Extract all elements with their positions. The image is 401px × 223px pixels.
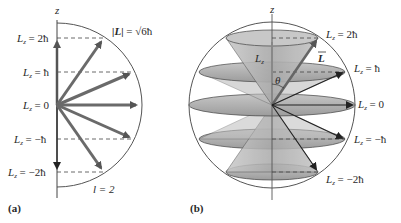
level-label-2hbar: Lz = 2ħ: [16, 32, 49, 46]
angular-momentum-diagram: z Lz = 2ħ Lz = ħ Lz = 0 Lz = −ħ Lz = −2ħ…: [0, 0, 401, 223]
vector-l-label: L: [317, 52, 325, 64]
level-b-hbar: Lz = ħ: [353, 62, 381, 76]
magnitude-label: |L| = √6ħ: [112, 25, 153, 37]
level-b-minus-2hbar: Lz = −2ħ: [325, 173, 364, 187]
theta-label: θ: [275, 74, 281, 86]
level-label-minus-hbar: Lz = −ħ: [13, 133, 47, 147]
z-axis-label-b: z: [269, 3, 275, 15]
level-b-2hbar: Lz = 2ħ: [325, 28, 358, 42]
quantum-number-label: l = 2: [93, 183, 115, 195]
level-label-minus-2hbar: Lz = −2ħ: [7, 166, 46, 180]
panel-a: z Lz = 2ħ Lz = ħ Lz = 0 Lz = −ħ Lz = −2ħ…: [7, 4, 153, 215]
panel-b: z θ Lz L Lz = 2ħ Lz = ħ Lz = 0 Lz = −ħ: [189, 3, 387, 215]
l-vectors: [57, 42, 136, 168]
level-label-hbar: Lz = ħ: [22, 66, 50, 80]
panel-a-label: (a): [8, 202, 21, 215]
level-b-minus-hbar: Lz = −ħ: [353, 133, 387, 147]
level-label-zero: Lz = 0: [22, 99, 50, 113]
panel-b-label: (b): [190, 202, 204, 215]
z-axis-label: z: [54, 4, 60, 16]
level-b-zero: Lz = 0: [357, 98, 385, 112]
